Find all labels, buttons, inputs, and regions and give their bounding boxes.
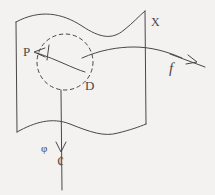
inner-sweep-curve	[37, 53, 85, 72]
phi-arrow-shaft	[61, 90, 62, 190]
sheet-left-edge	[16, 22, 17, 132]
sheet-bottom-edge	[17, 121, 146, 135]
phi-arrowhead	[56, 142, 66, 152]
fiber-curve	[82, 47, 182, 58]
label-d: D	[85, 79, 94, 92]
label-p: P	[23, 45, 30, 58]
label-f: f	[169, 61, 173, 76]
label-phi: φ	[41, 143, 47, 154]
label-x: X	[151, 16, 160, 28]
f-arrowhead	[186, 55, 197, 64]
diagram-drawing	[0, 0, 215, 195]
label-cent: ¢	[57, 155, 64, 169]
sheet-top-edge	[16, 11, 145, 36]
figure-canvas: P D X f φ ¢	[0, 0, 215, 195]
sheet-right-edge	[145, 11, 146, 124]
f-arrow-shaft	[170, 54, 205, 67]
